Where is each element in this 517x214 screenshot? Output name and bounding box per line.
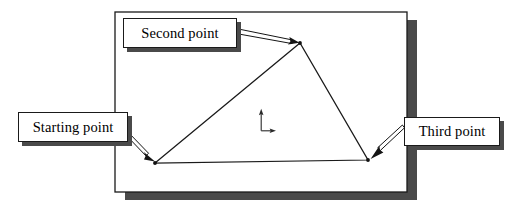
diagram-canvas <box>0 0 517 214</box>
figure-root: Second point Starting point Third point <box>0 0 517 214</box>
vertex-dot-second <box>298 41 302 45</box>
second-point-callout-label: Second point <box>141 26 218 41</box>
starting-point-callout-label: Starting point <box>33 120 114 135</box>
third-point-callout[interactable]: Third point <box>404 117 500 146</box>
vertex-dot-third <box>366 158 370 162</box>
starting-point-callout[interactable]: Starting point <box>18 112 128 142</box>
second-point-callout[interactable]: Second point <box>123 18 237 48</box>
third-point-callout-label: Third point <box>419 124 486 139</box>
vertex-dot-starting <box>153 161 157 165</box>
